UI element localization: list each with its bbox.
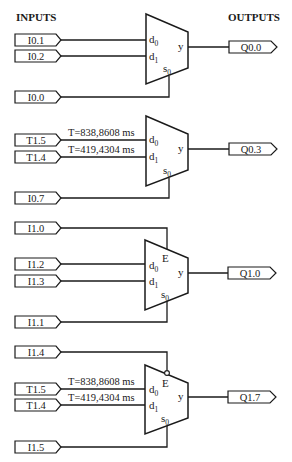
- svg-text:I1.3: I1.3: [28, 276, 45, 287]
- svg-text:T1.5: T1.5: [26, 384, 46, 395]
- input-tag-I0.0: I0.0: [15, 91, 61, 103]
- svg-text:T1.4: T1.4: [26, 400, 46, 411]
- svg-text:I1.1: I1.1: [28, 317, 45, 328]
- output-tag-Q1.7: Q1.7: [228, 391, 276, 403]
- input-tag-T1.4: T1.4: [15, 151, 61, 163]
- svg-text:Q0.3: Q0.3: [241, 144, 262, 155]
- output-tag-Q0.3: Q0.3: [229, 143, 277, 155]
- input-tag-I1.1: I1.1: [15, 316, 61, 328]
- svg-text:T1.4: T1.4: [26, 152, 46, 163]
- svg-text:T1.5: T1.5: [26, 135, 46, 146]
- mux-1: d0 d1 s0 y I0.1 I0.2 I0.0 Q0.0: [15, 14, 277, 103]
- pin-enable: E: [162, 252, 169, 264]
- svg-text:I0.0: I0.0: [28, 92, 45, 103]
- input-tag-I1.4: I1.4: [15, 346, 61, 358]
- timer-label-d0: T=838,8608 ms: [68, 127, 135, 138]
- input-tag-I0.1: I0.1: [15, 34, 61, 46]
- mux-3: E d0 d1 s0 y I1.0 I1.2 I1.3 I1.1 Q1.0: [15, 222, 276, 328]
- svg-text:I1.5: I1.5: [28, 442, 45, 453]
- pin-enable: E: [162, 377, 169, 389]
- multiplexer-diagram: INPUTS OUTPUTS d0 d1 s0 y I0.1 I0.2 I0.0…: [0, 0, 292, 462]
- pin-y: y: [178, 390, 184, 402]
- timer-label-d0: T=838,8608 ms: [68, 376, 135, 387]
- input-tag-I1.2: I1.2: [15, 258, 61, 270]
- timer-label-d1: T=419,4304 ms: [68, 392, 135, 403]
- input-tag-I0.2: I0.2: [15, 50, 61, 62]
- inputs-header: INPUTS: [16, 11, 56, 23]
- input-tag-I1.5: I1.5: [15, 441, 61, 453]
- svg-text:I1.4: I1.4: [28, 347, 45, 358]
- svg-text:Q1.0: Q1.0: [240, 268, 261, 279]
- svg-text:I0.7: I0.7: [28, 193, 45, 204]
- svg-text:I0.2: I0.2: [28, 51, 45, 62]
- timer-label-d1: T=419,4304 ms: [68, 144, 135, 155]
- mux-4: E d0 d1 s0 y T=838,8608 ms T=419,4304 ms…: [15, 346, 276, 453]
- pin-y: y: [178, 266, 184, 278]
- svg-text:Q1.7: Q1.7: [240, 392, 261, 403]
- svg-text:I1.0: I1.0: [28, 223, 45, 234]
- pin-y: y: [178, 40, 184, 52]
- input-tag-T1.5: T1.5: [15, 134, 61, 146]
- pin-y: y: [178, 142, 184, 154]
- input-tag-T1.5: T1.5: [15, 383, 61, 395]
- input-tag-I0.7: I0.7: [15, 192, 61, 204]
- svg-text:I0.1: I0.1: [28, 35, 45, 46]
- outputs-header: OUTPUTS: [228, 11, 280, 23]
- inverted-enable-bubble: [165, 371, 170, 376]
- svg-text:Q0.0: Q0.0: [241, 42, 262, 53]
- svg-text:I1.2: I1.2: [28, 259, 45, 270]
- output-tag-Q0.0: Q0.0: [229, 41, 277, 53]
- input-tag-T1.4: T1.4: [15, 399, 61, 411]
- output-tag-Q1.0: Q1.0: [228, 267, 276, 279]
- input-tag-I1.3: I1.3: [15, 275, 61, 287]
- input-tag-I1.0: I1.0: [15, 222, 61, 234]
- mux-2: d0 d1 s0 y T=838,8608 ms T=419,4304 ms T…: [15, 116, 277, 204]
